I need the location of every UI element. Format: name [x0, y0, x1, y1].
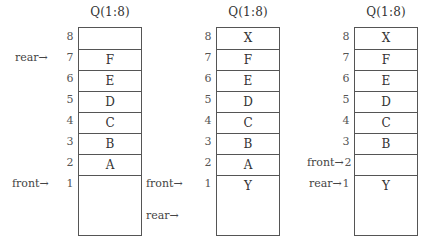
index-label: 4	[341, 114, 351, 127]
index-label: 4	[203, 114, 213, 127]
queue-title: Q(1:8)	[354, 5, 418, 19]
queue-cell-4: C	[217, 112, 279, 133]
queue-box: X F E D C B Y	[354, 27, 418, 236]
front-pointer: front→	[146, 177, 183, 190]
index-label: 7	[65, 51, 75, 64]
queue-title: Q(1:8)	[78, 5, 142, 19]
index-label: 8	[65, 30, 75, 43]
queue-cell-1: Y	[217, 175, 279, 235]
queue-cell-7: F	[355, 49, 417, 70]
index-label: 1	[203, 177, 213, 190]
index-label: 2	[65, 156, 75, 169]
queue-cell-8: X	[355, 28, 417, 49]
queue-cell-7: F	[217, 49, 279, 70]
index-label: 8	[341, 30, 351, 43]
queue-cell-2: A	[217, 154, 279, 175]
index-label: 3	[341, 135, 351, 148]
index-label: 6	[65, 72, 75, 85]
queue-title: Q(1:8)	[216, 5, 280, 19]
index-label: 6	[203, 72, 213, 85]
index-label: 1	[65, 177, 75, 190]
index-label: 1	[341, 177, 351, 190]
queue-cell-6: E	[79, 70, 141, 91]
rear-pointer: rear→	[15, 51, 48, 64]
rear-pointer: rear→	[309, 177, 342, 190]
index-label: 5	[203, 93, 213, 106]
index-label: 6	[341, 72, 351, 85]
queue-cell-6: E	[217, 70, 279, 91]
queue-cell-3: B	[79, 133, 141, 154]
queue-cell-4: C	[355, 112, 417, 133]
queue-cell-8: X	[217, 28, 279, 49]
queue-cell-5: D	[217, 91, 279, 112]
index-label: 3	[65, 135, 75, 148]
rear-pointer: rear→	[146, 209, 179, 222]
queue-cell-7: F	[79, 49, 141, 70]
queue-cell-4: C	[79, 112, 141, 133]
queue-cell-2: A	[79, 154, 141, 175]
index-label: 7	[203, 51, 213, 64]
index-label: 2	[203, 156, 213, 169]
queue-cell-1	[79, 175, 141, 235]
index-label: 5	[341, 93, 351, 106]
index-label: 4	[65, 114, 75, 127]
queue-cell-6: E	[355, 70, 417, 91]
index-label: 3	[203, 135, 213, 148]
index-label: 2	[343, 156, 353, 169]
queue-cell-3: B	[355, 133, 417, 154]
queue-box: F E D C B A	[78, 27, 142, 236]
queue-cell-5: D	[79, 91, 141, 112]
queue-cell-8	[79, 28, 141, 49]
queue-cell-2	[355, 154, 417, 175]
queue-cell-3: B	[217, 133, 279, 154]
front-pointer: front→	[12, 177, 49, 190]
queue-box: X F E D C B A Y	[216, 27, 280, 236]
queue-cell-1: Y	[355, 175, 417, 235]
index-label: 8	[203, 30, 213, 43]
front-pointer: front→	[307, 156, 344, 169]
queue-cell-5: D	[355, 91, 417, 112]
index-label: 7	[341, 51, 351, 64]
index-label: 5	[65, 93, 75, 106]
